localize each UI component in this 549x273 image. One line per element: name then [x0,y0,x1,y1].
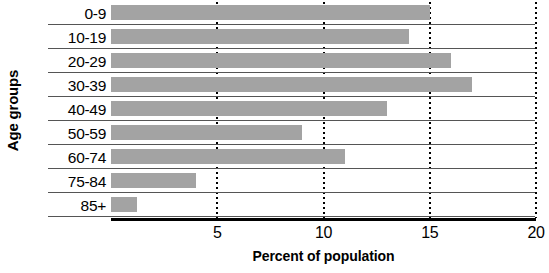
x-axis-line [111,218,536,221]
row-separator [48,72,535,73]
bar [111,29,409,44]
bar-row: 50-59 [0,122,549,145]
row-separator [48,192,535,193]
row-separator [48,48,535,49]
bar [111,5,430,20]
row-separator [48,96,535,97]
bar-row: 75-84 [0,170,549,193]
x-tick-label: 20 [516,224,549,242]
category-label: 20-29 [30,50,106,73]
category-label: 50-59 [30,122,106,145]
x-tick-label: 15 [410,224,450,242]
bar-row: 0-9 [0,2,549,25]
x-tick-label: 5 [197,224,237,242]
x-tick-label: 10 [304,224,344,242]
bar-chart: Age groups 0-910-1920-2930-3940-4950-596… [0,0,549,273]
bar [111,149,345,164]
row-separator [48,24,535,25]
bar [111,197,137,212]
row-separator [48,168,535,169]
bar [111,125,302,140]
bar-row: 85+ [0,194,549,217]
bar [111,53,451,68]
category-label: 10-19 [30,26,106,49]
plot-area: 0-910-1920-2930-3940-4950-5960-7475-8485… [0,0,549,220]
category-label: 30-39 [30,74,106,97]
category-label: 85+ [30,194,106,217]
x-axis-title: Percent of population [111,248,536,264]
bar [111,77,472,92]
category-label: 40-49 [30,98,106,121]
category-label: 60-74 [30,146,106,169]
category-label: 0-9 [30,2,106,25]
bar-row: 10-19 [0,26,549,49]
bar-row: 30-39 [0,74,549,97]
bar-row: 60-74 [0,146,549,169]
bar-row: 20-29 [0,50,549,73]
bar [111,101,387,116]
row-separator [48,216,535,217]
category-label: 75-84 [30,170,106,193]
row-separator [48,120,535,121]
row-separator [48,144,535,145]
bar-row: 40-49 [0,98,549,121]
bar [111,173,196,188]
